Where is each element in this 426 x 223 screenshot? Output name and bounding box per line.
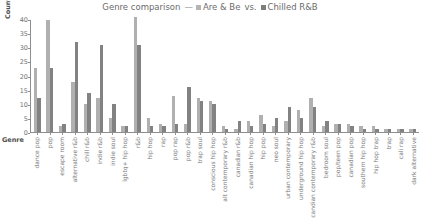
x-label-cell: dance pop [31,137,44,221]
x-axis-tick-label: trap soul [197,137,203,163]
x-axis-tick-label: underground hip hop [298,137,304,200]
y-axis-tick-mark [28,105,31,106]
x-axis-tick-label: escape room [59,137,65,176]
x-axis-tick-mark [338,132,339,135]
x-axis-label: Genre [2,136,24,144]
x-label-cell: trap soul [194,137,207,221]
x-axis-tick-label: dance pop [34,137,40,168]
x-axis-tick-label: conscious hip hop [210,137,216,191]
x-axis-tick-label: canadian pop [348,137,354,178]
y-axis-tick-mark [28,119,31,120]
x-axis-tick-label: urban contemporary [285,137,291,199]
x-label-cell: pop rap [169,137,182,221]
bar-group [69,20,82,132]
x-axis-tick-label: pop/teen pop [335,137,341,177]
bar-series-b [137,45,140,132]
legend-swatch-b-icon [261,5,266,10]
bar-series-b [238,121,241,132]
x-label-cell: indie r&b [94,137,107,221]
chart-legend: Genre comparison — Are & Be vs. Chilled … [0,3,420,12]
x-label-cell: underground hip hop [294,137,307,221]
bar-group [106,20,119,132]
bar-series-b [338,124,341,132]
legend-swatch-a-icon [196,5,201,10]
bar-group [44,20,57,132]
bar-group [94,20,107,132]
bar-series-b [313,107,316,132]
bar-group [269,20,282,132]
bar-group [169,20,182,132]
bar-series-b [87,93,90,132]
x-axis-tick-mark [150,132,151,135]
bar-group [119,20,132,132]
x-label-cell: lgbtq+ hip hop [119,137,132,221]
x-axis-tick-mark [350,132,351,135]
x-label-cell: escape room [56,137,69,221]
x-axis-tick-mark [238,132,239,135]
x-label-cell: indie soul [106,137,119,221]
x-axis-tick-mark [100,132,101,135]
x-axis-tick-labels: dance poppopescape roomalternative r&bch… [31,137,420,221]
x-axis-tick-label: cali rap [398,137,404,159]
x-axis-tick-mark [137,132,138,135]
bar-group [231,20,244,132]
x-axis-tick-label: hip hop trap [373,137,379,174]
x-axis-tick-mark [275,132,276,135]
bar-series-b [300,118,303,132]
x-label-cell: alt contemporary r&b [219,137,232,221]
bar-group [394,20,407,132]
bar-group [156,20,169,132]
plot-area: Count 0510152025303540 [30,20,419,133]
x-axis-tick-label: hip pop [260,137,266,159]
x-label-cell: chill r&b [81,137,94,221]
x-label-cell: canadian pop [345,137,358,221]
bar-group [406,20,419,132]
bar-group [331,20,344,132]
bar-group [219,20,232,132]
bar-group [206,20,219,132]
bar-series-b [50,68,53,132]
x-axis-tick-label: neo soul [273,137,279,162]
x-axis-tick-label: alt contemporary r&b [222,137,228,202]
x-axis-tick-mark [225,132,226,135]
x-axis-tick-label: canadian r&b [235,137,241,177]
x-axis-tick-label: pop [47,137,53,148]
x-axis-tick-label: southern hip hop [360,137,366,188]
legend-title: Genre comparison [102,3,180,12]
x-label-cell: alternative r&b [69,137,82,221]
x-axis-tick-mark [62,132,63,135]
x-label-cell: pop r&b [182,137,195,221]
x-label-cell: canadian r&b [232,137,245,221]
x-axis-tick-mark [212,132,213,135]
x-axis-tick-label: pop rap [172,137,178,160]
legend-label-b: Chilled R&B [268,3,318,12]
x-axis-tick-mark [112,132,113,135]
y-axis-tick-mark [28,34,31,35]
x-axis-tick-label: r&b [135,137,141,148]
bar-group [131,20,144,132]
x-label-cell: dark alternative [407,137,420,221]
x-axis-tick-mark [200,132,201,135]
x-label-cell: neo soul [269,137,282,221]
bar-group [56,20,69,132]
x-axis-tick-mark [37,132,38,135]
x-label-cell: canadian hip hop [244,137,257,221]
x-label-cell: candian contemporary r&b [307,137,320,221]
bar-group [319,20,332,132]
bar-series-b [112,104,115,132]
bar-group [194,20,207,132]
x-axis-tick-label: candian contemporary r&b [310,137,316,218]
x-label-cell: hip pop [257,137,270,221]
bar-series-b [263,124,266,132]
x-label-cell: pop [44,137,57,221]
x-label-cell: bedroom soul [320,137,333,221]
bar-group [344,20,357,132]
x-label-cell: pop/teen pop [332,137,345,221]
x-axis-tick-label: dark alternative [411,137,417,185]
x-axis-tick-mark [288,132,289,135]
x-axis-tick-mark [300,132,301,135]
bar-series-b [100,45,103,132]
x-axis-tick-label: alternative r&b [72,137,78,182]
bar-series-b [212,104,215,132]
x-axis-tick-label: chill r&b [84,137,90,162]
